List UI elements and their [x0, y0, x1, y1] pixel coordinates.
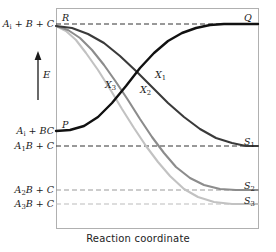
- endpoint-label-s2: S2: [244, 181, 255, 191]
- level-label-p: Ai + BC: [17, 126, 55, 136]
- endpoint-label-s3: S3: [244, 196, 255, 206]
- figure-root: Ai + B + C Ai + BC A1B + C A2B + C A3B +…: [0, 0, 276, 252]
- energy-axis-label: E: [43, 70, 50, 80]
- plot-frame: [57, 9, 259, 229]
- point-label-q: Q: [244, 13, 252, 23]
- level-label-s1: A1B + C: [15, 141, 54, 151]
- x-axis-title: Reaction coordinate: [0, 234, 276, 244]
- crossing-label-x3: X3: [105, 80, 116, 90]
- point-label-p: P: [62, 120, 68, 130]
- level-label-s3: A3B + C: [15, 199, 54, 209]
- crossing-label-x2: X2: [140, 85, 151, 95]
- point-label-r: R: [62, 13, 69, 23]
- endpoint-label-s1: S1: [244, 137, 255, 147]
- level-label-s2: A2B + C: [15, 185, 54, 195]
- level-label-top: Ai + B + C: [3, 19, 54, 29]
- crossing-label-x1: X1: [155, 70, 166, 80]
- curve-r-to-s3: [56, 26, 258, 204]
- energy-axis-arrow: [35, 51, 42, 100]
